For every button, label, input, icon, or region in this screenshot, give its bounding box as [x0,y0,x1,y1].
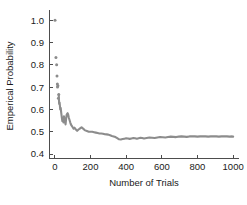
y-tick-label: 0.8 [31,59,44,70]
y-tick-label: 0.9 [31,37,44,48]
empirical-probability-line [59,94,233,139]
x-tick-label: 800 [190,161,206,172]
x-tick-label: 200 [83,161,99,172]
y-tick-label: 0.4 [31,148,44,159]
y-tick-label: 0.5 [31,126,44,137]
y-tick-label: 0.7 [31,82,44,93]
y-tick-label: 0.6 [31,104,44,115]
convergence-chart: 0.40.50.60.70.80.91.0 02004006008001000 … [0,0,247,205]
x-tick-label: 0 [52,161,57,172]
y-axis-label: Emperical Probability [4,41,15,130]
x-tick-label: 400 [118,161,134,172]
data-point [56,84,59,87]
early-scatter-points [54,19,61,100]
x-tick-label: 1000 [223,161,244,172]
x-axis-label: Number of Trials [109,177,179,188]
data-point [55,63,58,66]
x-tick-label: 600 [154,161,170,172]
x-axis-ticks: 02004006008001000 [52,155,244,172]
y-tick-label: 1.0 [31,15,44,26]
figure-container: 0.40.50.60.70.80.91.0 02004006008001000 … [0,0,247,205]
data-point [54,56,57,59]
data-point [55,74,58,77]
data-point [54,19,57,22]
